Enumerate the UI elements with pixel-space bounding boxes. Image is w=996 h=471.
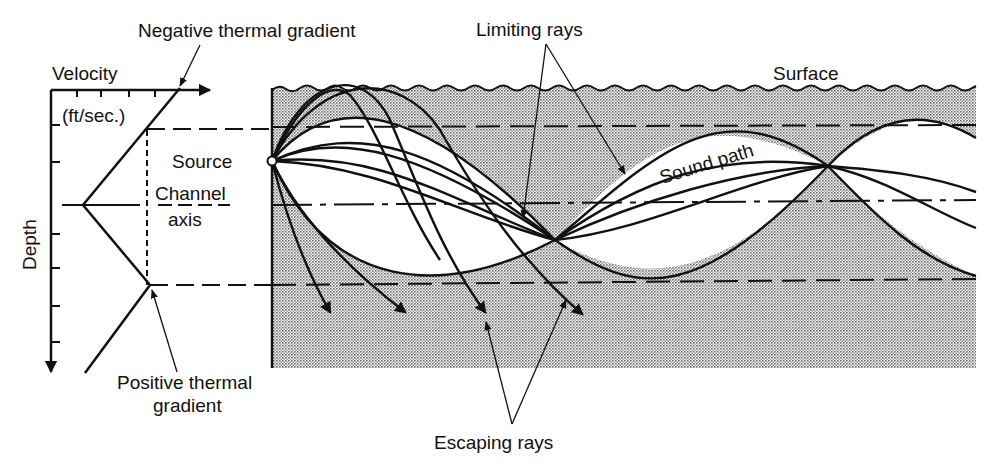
negative-gradient-pointer — [180, 45, 200, 86]
label-negative-gradient: Negative thermal gradient — [138, 20, 356, 41]
label-channel: Channel — [155, 183, 226, 204]
velocity-profile-line — [83, 88, 180, 373]
label-velocity: Velocity — [52, 63, 118, 84]
label-positive-gradient-1: Positive thermal — [117, 372, 252, 393]
source-point — [268, 157, 277, 166]
sound-channel-diagram: Negative thermal gradient Limiting rays … — [0, 0, 996, 471]
depth-ticks — [51, 125, 60, 342]
label-surface: Surface — [773, 63, 838, 84]
positive-gradient-pointer — [152, 290, 177, 372]
label-axis: axis — [168, 209, 202, 230]
label-source: Source — [172, 151, 232, 172]
label-positive-gradient-2: gradient — [153, 395, 222, 416]
label-depth: Depth — [19, 219, 40, 270]
velocity-profile — [51, 88, 272, 373]
label-velocity-unit: (ft/sec.) — [62, 105, 125, 126]
label-escaping-rays: Escaping rays — [434, 432, 553, 453]
ocean-section — [268, 85, 977, 368]
label-limiting-rays: Limiting rays — [476, 19, 583, 40]
